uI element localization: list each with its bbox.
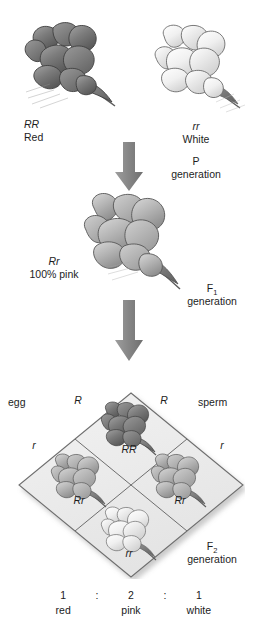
punnett-cell-right-genotype: Rr: [155, 494, 205, 507]
flower-parent-rr-white: [146, 22, 251, 114]
parent-left-phenotype: Red: [24, 131, 84, 144]
f1-phenotype: 100% pink: [14, 268, 94, 281]
arrow-p-to-f1: [112, 142, 146, 192]
flower-f1-rr-pink: [78, 190, 190, 292]
p-generation-label-line2: generation: [160, 168, 232, 181]
ratio-label-pink: pink: [109, 604, 153, 616]
ratio-label-white: white: [177, 604, 221, 616]
f1-genotype: Rr: [18, 255, 90, 268]
f2-generation-label-line2: generation: [176, 553, 248, 566]
flower-parent-rr-red: [20, 18, 128, 110]
phenotype-ratio-labels: red pink white: [0, 604, 262, 616]
arrow-f1-to-f2: [112, 300, 146, 362]
punnett-allele-right: r: [212, 439, 232, 452]
punnett-allele-top-left: R: [66, 394, 90, 407]
ratio-separator-1: :: [88, 589, 106, 601]
punnett-sperm-label: sperm: [198, 396, 248, 409]
ratio-separator-2: :: [156, 589, 174, 601]
punnett-cell-left-genotype: Rr: [54, 494, 104, 507]
parent-left-genotype: RR: [24, 118, 84, 131]
f1-generation-label-line2: generation: [176, 295, 248, 308]
parent-right-genotype: rr: [160, 120, 232, 133]
ratio-count-pink: 2: [109, 589, 153, 601]
phenotype-ratio-counts: 1 : 2 : 1: [0, 589, 262, 601]
punnett-egg-label: egg: [8, 396, 48, 409]
ratio-count-red: 1: [41, 589, 85, 601]
p-generation-label-line1: P: [160, 155, 232, 168]
punnett-cell-bottom-genotype: rr: [104, 547, 154, 560]
punnett-allele-left: r: [24, 439, 44, 452]
ratio-label-red: red: [41, 604, 85, 616]
parent-right-phenotype: White: [160, 133, 232, 146]
ratio-count-white: 1: [177, 589, 221, 601]
punnett-cell-top-genotype: RR: [104, 443, 154, 456]
